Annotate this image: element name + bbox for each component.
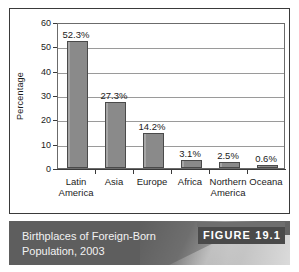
bar-highlight <box>144 134 146 167</box>
category-label: LatinAmerica <box>59 176 94 198</box>
category-label-line1: Europe <box>137 176 168 187</box>
category-label: Oceana <box>249 176 282 187</box>
category-label: Africa <box>178 176 202 187</box>
bar-value-label: 27.3% <box>101 91 128 101</box>
gridline <box>58 48 284 49</box>
category-label-line1: Asia <box>105 176 123 187</box>
figure-caption-band: Birthplaces of Foreign-Born Population, … <box>9 221 290 265</box>
y-tick-label: 0 <box>46 165 51 174</box>
category-label-line1: Africa <box>178 176 202 187</box>
bar-highlight <box>106 103 108 167</box>
category-label: NorthernAmerica <box>210 176 247 198</box>
bar-value-label: 3.1% <box>179 149 201 159</box>
figure-container: Percentage 0102030405060 52.3%27.3%14.2%… <box>0 0 299 272</box>
bar-value-label: 14.2% <box>139 122 166 132</box>
figure-caption-text: Birthplaces of Foreign-Born Population, … <box>22 229 202 259</box>
bar-highlight <box>258 166 260 167</box>
gridline <box>58 121 284 122</box>
bar-value-label: 2.5% <box>217 151 239 161</box>
bar <box>105 102 126 168</box>
x-tick-mark <box>171 170 172 174</box>
bar-highlight <box>182 161 184 167</box>
y-tick-label: 60 <box>41 19 51 28</box>
figure-number-badge: FIGURE 19.1 <box>198 227 285 244</box>
bar <box>67 41 88 168</box>
bar <box>257 165 278 168</box>
caption-line-1: Birthplaces of Foreign-Born <box>22 230 156 242</box>
category-label-line1: Northern <box>210 176 247 187</box>
plot-area <box>57 23 285 169</box>
y-tick-label: 10 <box>41 140 51 149</box>
y-tick-label: 50 <box>41 43 51 52</box>
x-tick-mark <box>247 170 248 174</box>
bar-value-label: 0.6% <box>255 154 277 164</box>
bar <box>219 162 240 168</box>
x-tick-mark <box>95 170 96 174</box>
y-tick-label: 40 <box>41 67 51 76</box>
category-label: Europe <box>137 176 168 187</box>
category-label-line2: America <box>210 187 247 198</box>
gridline <box>58 146 284 147</box>
y-tick-mark <box>53 169 57 170</box>
bar-value-label: 52.3% <box>63 30 90 40</box>
category-label-line1: Latin <box>66 176 87 187</box>
caption-line-2: Population, 2003 <box>22 244 202 259</box>
gridline <box>58 97 284 98</box>
y-axis-title: Percentage <box>15 72 25 120</box>
x-tick-mark <box>209 170 210 174</box>
chart-frame: Percentage 0102030405060 52.3%27.3%14.2%… <box>9 8 290 214</box>
category-label-line1: Oceana <box>249 176 282 187</box>
category-label-line2: America <box>59 187 94 198</box>
gridline <box>58 73 284 74</box>
bar-highlight <box>68 42 70 167</box>
x-tick-mark <box>133 170 134 174</box>
bar-highlight <box>220 163 222 167</box>
bar <box>181 160 202 168</box>
y-tick-label: 30 <box>41 92 51 101</box>
y-tick-label: 20 <box>41 116 51 125</box>
bar <box>143 133 164 168</box>
category-label: Asia <box>105 176 123 187</box>
